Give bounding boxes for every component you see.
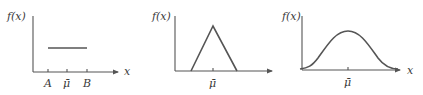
tick-label-mu: μ̄ <box>344 76 351 89</box>
panel-uniform: f(x) x A μ̄ B <box>6 10 131 90</box>
tick-label-a: A <box>43 77 52 90</box>
panel-bell: f(x) x μ̄ <box>281 10 414 89</box>
x-axis-label: x <box>407 64 414 77</box>
tick-label-mu: μ̄ <box>209 77 216 90</box>
bell-density-curve <box>300 31 398 69</box>
y-axis-label: f(x) <box>151 10 171 23</box>
triangular-density <box>191 26 237 71</box>
tick-label-b: B <box>82 77 91 90</box>
y-axis-label: f(x) <box>6 10 26 23</box>
distribution-diagrams: f(x) x A μ̄ B f(x) μ̄ f(x) x μ̄ <box>0 0 423 95</box>
x-axis-label: x <box>124 65 131 78</box>
tick-label-mu: μ̄ <box>63 77 70 90</box>
y-axis-label: f(x) <box>281 10 301 23</box>
panel-triangular: f(x) μ̄ <box>151 10 272 90</box>
